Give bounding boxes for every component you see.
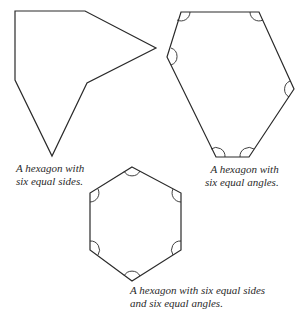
caption-regular: A hexagon with six equal sides and six e…	[130, 284, 265, 310]
equiangular-hexagon	[167, 12, 294, 157]
angle-marks	[171, 12, 290, 157]
hexagon-figure-canvas: A hexagon with six equal sides. A hexago…	[0, 0, 299, 319]
regular-hexagon	[90, 167, 181, 281]
hexagon-diagrams	[0, 0, 299, 319]
caption-line: six equal sides.	[16, 175, 84, 188]
caption-line: six equal angles.	[205, 176, 279, 189]
caption-line: and six equal angles.	[130, 297, 265, 310]
equilateral-hexagon	[15, 11, 156, 156]
caption-line: A hexagon with	[205, 163, 279, 176]
caption-equal-sides: A hexagon with six equal sides.	[16, 162, 84, 188]
caption-line: A hexagon with	[16, 162, 84, 175]
caption-equal-angles: A hexagon with six equal angles.	[205, 163, 279, 189]
caption-line: A hexagon with six equal sides	[130, 284, 265, 297]
